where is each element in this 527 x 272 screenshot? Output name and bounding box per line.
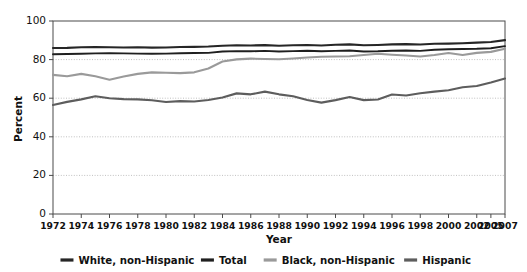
x-axis-tick-label: 1992 (323, 220, 349, 231)
legend-label: White, non-Hispanic (78, 255, 194, 266)
y-axis-tick-label: 40 (33, 130, 46, 142)
x-axis-tick-label: 1994 (351, 220, 377, 231)
y-axis-tick-label: 0 (39, 207, 46, 219)
x-axis-title: Year (265, 233, 293, 245)
x-axis-tick-label: 1998 (407, 220, 433, 231)
legend-label: Black, non-Hispanic (282, 255, 395, 266)
x-axis-tick-label: 1986 (238, 220, 264, 231)
x-axis-tick-label: 1990 (294, 220, 320, 231)
x-axis-tick-label: 1984 (210, 220, 236, 231)
x-axis-tick-label: 1972 (40, 220, 66, 231)
y-axis-tick-label: 80 (33, 53, 46, 65)
y-axis-tick-label: 60 (33, 91, 46, 103)
x-axis-tick-label: 1978 (125, 220, 151, 231)
x-axis-tick-label: 2007 (492, 220, 518, 231)
x-axis-tick-label: 1974 (68, 220, 94, 231)
legend-label: Hispanic (422, 255, 471, 266)
x-axis-tick-label: 1988 (266, 220, 292, 231)
y-axis-title: Percent (12, 96, 24, 142)
line-chart: 020406080100 197219741976197819801982198… (0, 0, 527, 272)
x-axis-tick-label: 1980 (153, 220, 179, 231)
x-axis-tick-label: 2000 (436, 220, 462, 231)
y-axis-tick-label: 20 (33, 168, 46, 180)
x-axis-tick-label: 1976 (97, 220, 123, 231)
x-axis-tick-label: 1982 (181, 220, 207, 231)
legend-label: Total (219, 255, 247, 266)
y-axis-tick-label: 100 (26, 14, 46, 26)
chart-background (0, 0, 527, 272)
chart-container: 020406080100 197219741976197819801982198… (0, 0, 527, 272)
x-axis-tick-label: 1996 (379, 220, 405, 231)
